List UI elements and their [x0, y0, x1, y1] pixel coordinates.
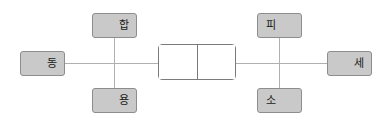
connector-vertical-left: [114, 31, 115, 95]
node-right-se[interactable]: 세: [327, 51, 372, 76]
node-top-left-hap[interactable]: 합: [92, 13, 137, 38]
node-left-dong[interactable]: 동: [20, 51, 65, 76]
node-bottom-left-yong-label: 용: [93, 95, 136, 106]
diagram-canvas: 동 합 용 피 소 세: [0, 0, 387, 125]
node-top-left-hap-label: 합: [93, 20, 136, 31]
node-bottom-right-so-label: 소: [258, 95, 301, 106]
center-cell-left: [159, 45, 197, 79]
connector-left-to-center: [64, 63, 159, 64]
node-bottom-right-so[interactable]: 소: [257, 88, 302, 113]
node-left-dong-label: 동: [21, 58, 64, 69]
node-top-right-pi[interactable]: 피: [257, 13, 302, 38]
center-cell-right: [197, 45, 235, 79]
center-box: [158, 44, 236, 80]
node-top-right-pi-label: 피: [258, 20, 301, 31]
node-bottom-left-yong[interactable]: 용: [92, 88, 137, 113]
connector-center-to-right: [235, 63, 328, 64]
connector-vertical-right: [279, 31, 280, 95]
node-right-se-label: 세: [328, 58, 371, 69]
